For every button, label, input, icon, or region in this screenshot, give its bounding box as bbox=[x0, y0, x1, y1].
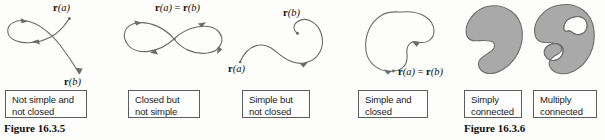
blob-with-holes-shape bbox=[535, 5, 595, 74]
caption-not-simple-not-closed: Not simple and not closed bbox=[5, 90, 87, 118]
panel-multiply-connected: Multiply connected bbox=[530, 0, 605, 140]
arrowhead-icon bbox=[20, 18, 28, 24]
label-ra-eq-rb: r(a) = r(b) bbox=[155, 2, 200, 13]
blob-shape bbox=[466, 6, 522, 74]
label-rb: r(b) bbox=[283, 7, 300, 18]
curve-not-simple-not-closed bbox=[0, 0, 118, 90]
arrowhead-icon bbox=[384, 70, 392, 75]
caption-multiply-connected: Multiply connected bbox=[533, 90, 597, 118]
panel-simple-not-closed: r(b) r(a) Simple but not closed bbox=[236, 0, 348, 140]
label-ra-eq-rb: r(a) = r(b) bbox=[398, 66, 443, 77]
caption-closed-not-simple: Closed but not simple bbox=[128, 90, 200, 118]
crossing-point-dot bbox=[173, 38, 176, 41]
start-end-point-dot bbox=[392, 70, 395, 73]
panel-closed-not-simple: r(a) = r(b) Closed but not simple bbox=[118, 0, 236, 140]
caption-simply-connected: Simply connected bbox=[464, 90, 522, 118]
figure-number-left: Figure 16.3.5 bbox=[4, 122, 65, 134]
label-rb: r(b) bbox=[64, 76, 81, 87]
label-ra: r(a) bbox=[228, 63, 245, 74]
curve-closed-not-simple bbox=[118, 0, 236, 90]
caption-simple-and-closed: Simple and closed bbox=[358, 90, 428, 118]
start-point-dot bbox=[68, 17, 71, 20]
caption-simple-not-closed: Simple but not closed bbox=[242, 90, 310, 118]
figure-sheet: r(a) r(b) Not simple and not closed r(a) bbox=[0, 0, 605, 140]
end-point-dot bbox=[296, 32, 299, 35]
region-multiply-connected bbox=[530, 0, 605, 88]
panel-simple-and-closed: r(a) = r(b) Simple and closed bbox=[348, 0, 460, 140]
arrowhead-icon bbox=[32, 39, 40, 44]
panel-not-simple-not-closed: r(a) r(b) Not simple and not closed bbox=[0, 0, 118, 140]
panel-simply-connected: Simply connected bbox=[462, 0, 530, 140]
label-ra: r(a) bbox=[53, 2, 70, 13]
figure-number-right: Figure 16.3.6 bbox=[464, 122, 525, 134]
region-simply-connected bbox=[462, 0, 530, 88]
